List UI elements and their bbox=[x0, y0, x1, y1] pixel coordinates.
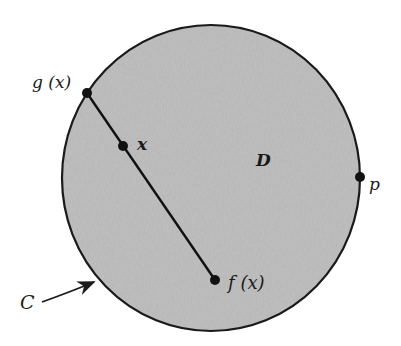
point-g-x bbox=[82, 88, 92, 98]
point-x bbox=[118, 141, 128, 151]
point-f-x bbox=[210, 275, 220, 285]
point-p bbox=[355, 172, 365, 182]
arrow-c-to-boundary bbox=[42, 282, 94, 302]
label-x: x bbox=[136, 134, 148, 154]
label-p: p bbox=[369, 174, 380, 194]
label-region-d: D bbox=[255, 150, 271, 170]
retraction-diagram: g (x) x f (x) p D C bbox=[0, 0, 401, 346]
label-g-x: g (x) bbox=[32, 72, 71, 92]
label-boundary-c: C bbox=[20, 291, 35, 313]
region-d-texture bbox=[62, 25, 360, 331]
label-f-x: f (x) bbox=[226, 272, 265, 293]
